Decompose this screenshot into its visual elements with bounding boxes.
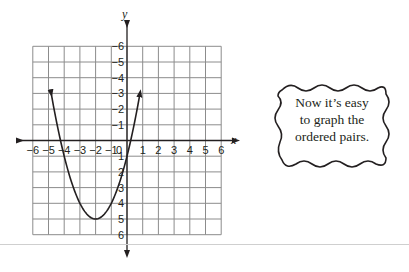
y-tick-label: −4 [111,72,124,84]
y-tick-label: 1 [118,150,124,162]
x-tick-label: 6 [218,144,224,156]
y-tick-label: 6 [118,229,124,241]
speech-bubble-text: Now it’s easy to graph the ordered pairs… [268,94,396,145]
x-tick-label: 2 [155,144,161,156]
y-tick-label: −2 [111,103,124,115]
bubble-line-1: Now it’s easy [268,94,396,111]
bubble-line-3: ordered pairs. [268,128,396,145]
x-tick-label: −5 [42,144,55,156]
divider-line [0,244,409,245]
y-tick-label: 5 [118,213,124,225]
y-tick-label: 4 [118,197,124,209]
y-tick-label: −5 [111,56,124,68]
x-axis-label: x [230,133,237,147]
x-tick-label: 4 [187,144,193,156]
x-tick-label: 1 [140,144,146,156]
x-tick-label: 5 [202,144,208,156]
y-tick-label: −6 [111,40,124,52]
x-tick-label: −6 [27,144,40,156]
y-axis-label: y [121,7,128,21]
bubble-line-2: to graph the [268,111,396,128]
x-tick-label: −2 [89,144,102,156]
y-tick-label: −3 [111,87,124,99]
x-tick-label: 3 [171,144,177,156]
x-tick-label: −3 [74,144,87,156]
y-tick-label: −1 [111,119,124,131]
